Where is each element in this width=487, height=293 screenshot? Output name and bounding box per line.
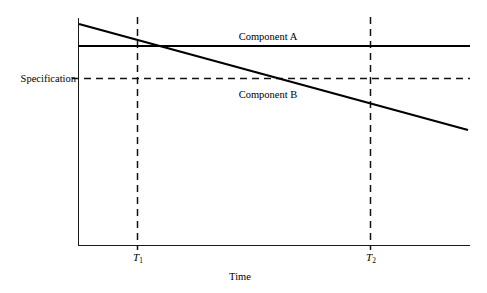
figure-canvas: Specification Component A Component B T1… — [0, 0, 487, 293]
series-label-component-a: Component A — [208, 32, 328, 43]
x-tick-label-t2-subscript: 2 — [372, 256, 376, 265]
x-tick-label-t2: T2 — [351, 252, 391, 263]
series-label-component-b: Component B — [208, 90, 328, 101]
x-tick-label-t1-subscript: 1 — [139, 256, 143, 265]
chart-plot-area — [0, 0, 487, 293]
specification-axis-label: Specification — [2, 74, 76, 85]
x-tick-label-t1: T1 — [118, 252, 158, 263]
x-axis-title: Time — [190, 272, 290, 283]
